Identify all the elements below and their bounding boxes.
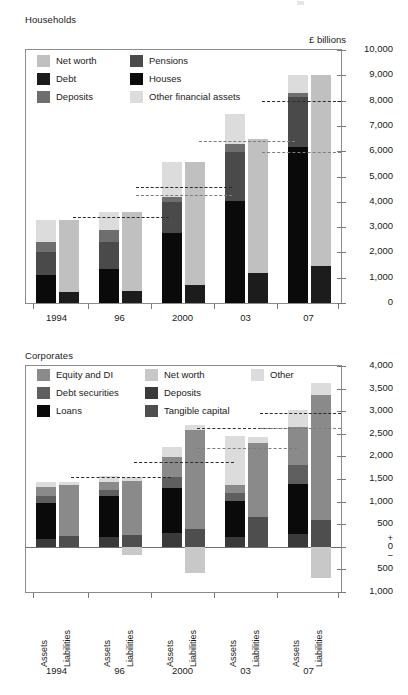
legend-swatch-corp-net-worth bbox=[145, 369, 158, 381]
legend-item-net-worth[interactable]: Net worth bbox=[37, 55, 97, 67]
y-axis-tick bbox=[341, 126, 346, 127]
y-axis-tick-inner bbox=[337, 278, 341, 279]
bar-segment bbox=[225, 501, 245, 537]
bar-segment bbox=[311, 520, 331, 547]
x-axis-group-label: 2000 bbox=[153, 665, 213, 676]
legend-item-deposits[interactable]: Deposits bbox=[37, 91, 93, 103]
households-panel: Households £ billions Net worth Debt Dep… bbox=[0, 0, 408, 350]
bar-segment bbox=[225, 201, 245, 303]
bar-segment bbox=[162, 162, 182, 197]
x-axis-label: 1994 bbox=[27, 312, 87, 323]
x-axis-label: 03 bbox=[216, 312, 276, 323]
bar-segment bbox=[36, 242, 56, 253]
x-axis-tick bbox=[33, 593, 34, 598]
legend-item-equity-and-di[interactable]: Equity and DI bbox=[37, 369, 113, 381]
bar-segment bbox=[99, 212, 119, 230]
bar-label-liabilities: Liabilities bbox=[251, 630, 261, 667]
minus-sign: − bbox=[347, 550, 393, 561]
bar-segment-negative bbox=[311, 547, 331, 579]
households-y-axis: 10,0009,0008,0007,0006,0005,0004,0003,00… bbox=[347, 49, 403, 304]
y-axis-tick bbox=[341, 366, 346, 367]
y-axis-tick-inner bbox=[337, 177, 341, 178]
y-axis-label: 1,000 bbox=[347, 272, 393, 282]
bar-segment bbox=[59, 536, 79, 546]
households-title: Households bbox=[25, 14, 76, 25]
bar-segment bbox=[99, 496, 119, 538]
y-axis-tick bbox=[341, 75, 346, 76]
bar-segment bbox=[248, 273, 268, 303]
bar-segment bbox=[162, 447, 182, 457]
page-speck bbox=[297, 1, 304, 5]
x-axis-tick bbox=[88, 593, 89, 598]
legend-swatch-loans bbox=[37, 405, 50, 417]
bar-segment bbox=[36, 252, 56, 275]
bar-segment bbox=[122, 212, 142, 291]
bar-segment bbox=[225, 493, 245, 501]
bar-segment bbox=[99, 482, 119, 490]
legend-item-other-financial-assets[interactable]: Other financial assets bbox=[130, 91, 240, 103]
bar-label-assets: Assets bbox=[228, 640, 238, 667]
corporates-title: Corporates bbox=[25, 350, 73, 361]
y-axis-label: 500 bbox=[347, 518, 393, 528]
x-axis-group-label: 03 bbox=[216, 665, 276, 676]
legend-label-corp-deposits: Deposits bbox=[164, 387, 201, 399]
y-axis-tick-inner bbox=[337, 434, 341, 435]
bar-segment bbox=[162, 488, 182, 533]
x-axis-group-label: 96 bbox=[90, 665, 150, 676]
annotation-dashed-line bbox=[136, 187, 232, 188]
y-axis-tick bbox=[341, 547, 346, 548]
legend-item-houses[interactable]: Houses bbox=[130, 73, 181, 85]
bar-segment bbox=[185, 529, 205, 547]
legend-item-tangible-capital[interactable]: Tangible capital bbox=[145, 405, 230, 417]
legend-item-pensions[interactable]: Pensions bbox=[130, 55, 188, 67]
y-axis-tick bbox=[341, 252, 346, 253]
legend-item-debt-securities[interactable]: Debt securities bbox=[37, 387, 119, 399]
annotation-dashed-line bbox=[262, 152, 342, 153]
y-axis-label: 3,000 bbox=[347, 405, 393, 415]
legend-item-corp-net-worth[interactable]: Net worth bbox=[145, 369, 205, 381]
bar-segment bbox=[248, 437, 268, 443]
bar-segment bbox=[288, 484, 308, 533]
x-axis-tick bbox=[338, 593, 339, 598]
bar-segment bbox=[225, 114, 245, 144]
y-axis-label: 3,500 bbox=[347, 383, 393, 393]
bar-segment bbox=[122, 481, 142, 535]
legend-item-corp-other[interactable]: Other bbox=[251, 369, 294, 381]
y-axis-tick-inner bbox=[337, 389, 341, 390]
legend-label-corp-net-worth: Net worth bbox=[164, 369, 205, 381]
bar-segment bbox=[59, 485, 79, 537]
bar-segment bbox=[36, 496, 56, 503]
legend-item-loans[interactable]: Loans bbox=[37, 405, 82, 417]
legend-label-other-financial-assets: Other financial assets bbox=[149, 91, 240, 103]
y-axis-label: 2,000 bbox=[347, 246, 393, 256]
y-axis-tick bbox=[341, 456, 346, 457]
bar-segment bbox=[185, 430, 205, 529]
legend-item-corp-deposits[interactable]: Deposits bbox=[145, 387, 201, 399]
y-axis-tick-inner bbox=[337, 126, 341, 127]
legend-item-debt[interactable]: Debt bbox=[37, 73, 76, 85]
x-axis-tick bbox=[151, 593, 152, 598]
y-axis-tick-inner bbox=[337, 227, 341, 228]
legend-swatch-corp-other bbox=[251, 369, 264, 381]
bar-segment bbox=[225, 537, 245, 547]
annotation-dashed-line bbox=[73, 217, 169, 218]
annotation-dashed-line bbox=[71, 477, 171, 478]
y-axis-tick bbox=[341, 389, 346, 390]
bar-segment bbox=[122, 535, 142, 547]
legend-label-debt-securities: Debt securities bbox=[56, 387, 119, 399]
x-axis-tick bbox=[33, 304, 34, 309]
x-axis-group-label: 07 bbox=[279, 665, 339, 676]
legend-label-loans: Loans bbox=[56, 405, 82, 417]
y-axis-tick-inner bbox=[337, 202, 341, 203]
y-axis-tick bbox=[341, 524, 346, 525]
y-axis-tick bbox=[341, 101, 346, 102]
annotation-dashed-line bbox=[136, 195, 232, 196]
bar-label-liabilities: Liabilities bbox=[62, 630, 72, 667]
y-axis-label: 1,500 bbox=[347, 473, 393, 483]
bar-segment bbox=[248, 443, 268, 517]
y-axis-tick-inner bbox=[337, 569, 341, 570]
y-axis-tick bbox=[341, 151, 346, 152]
y-axis-tick-inner bbox=[337, 479, 341, 480]
households-legend: Net worth Debt Deposits Pensions Houses … bbox=[37, 55, 317, 111]
bar-segment bbox=[59, 292, 79, 303]
